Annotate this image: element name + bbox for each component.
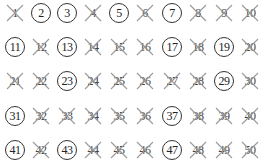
cross-mark-icon [240, 71, 260, 91]
cross-mark-icon [240, 140, 260, 160]
crossed-number-cell: 20 [238, 35, 262, 59]
cross-mark-icon [31, 106, 51, 126]
crossed-number-cell: 45 [107, 138, 131, 162]
crossed-number-cell: 30 [238, 69, 262, 93]
crossed-number-cell: 38 [186, 104, 210, 128]
prime-number-cell: 23 [55, 69, 79, 93]
cross-mark-icon [83, 106, 103, 126]
prime-number-cell: 43 [55, 138, 79, 162]
cross-mark-icon [214, 3, 234, 23]
cross-mark-icon [135, 3, 155, 23]
cross-mark-icon [83, 140, 103, 160]
prime-number-cell: 5 [107, 1, 131, 25]
cross-mark-icon [5, 71, 25, 91]
cross-mark-icon [240, 3, 260, 23]
cross-mark-icon [83, 71, 103, 91]
number-label: 5 [116, 7, 122, 19]
cross-mark-icon [109, 37, 129, 57]
crossed-number-cell: 39 [212, 104, 236, 128]
cross-mark-icon [188, 106, 208, 126]
cross-mark-icon [31, 140, 51, 160]
crossed-number-cell: 6 [133, 1, 157, 25]
crossed-number-cell: 21 [3, 69, 27, 93]
cross-mark-icon [135, 140, 155, 160]
crossed-number-cell: 25 [107, 69, 131, 93]
crossed-number-cell: 33 [55, 104, 79, 128]
cross-mark-icon [109, 140, 129, 160]
crossed-number-cell: 44 [81, 138, 105, 162]
number-label: 31 [10, 110, 21, 122]
crossed-number-cell: 15 [107, 35, 131, 59]
prime-number-cell: 29 [212, 69, 236, 93]
crossed-number-cell: 32 [29, 104, 53, 128]
prime-number-cell: 19 [212, 35, 236, 59]
prime-number-cell: 31 [3, 104, 27, 128]
crossed-number-cell: 26 [133, 69, 157, 93]
crossed-number-cell: 34 [81, 104, 105, 128]
cross-mark-icon [188, 37, 208, 57]
cross-mark-icon [135, 106, 155, 126]
number-label: 19 [219, 41, 230, 53]
prime-number-cell: 2 [29, 1, 53, 25]
number-label: 13 [62, 41, 73, 53]
crossed-number-cell: 12 [29, 35, 53, 59]
crossed-number-cell: 18 [186, 35, 210, 59]
crossed-number-cell: 24 [81, 69, 105, 93]
prime-number-cell: 7 [160, 1, 184, 25]
prime-number-cell: 41 [3, 138, 27, 162]
prime-number-cell: 3 [55, 1, 79, 25]
crossed-number-cell: 28 [186, 69, 210, 93]
cross-mark-icon [83, 37, 103, 57]
crossed-number-cell: 14 [81, 35, 105, 59]
cross-mark-icon [31, 37, 51, 57]
cross-mark-icon [188, 71, 208, 91]
number-label: 2 [38, 7, 44, 19]
number-label: 43 [62, 144, 73, 156]
crossed-number-cell: 48 [186, 138, 210, 162]
cross-mark-icon [83, 3, 103, 23]
crossed-number-cell: 4 [81, 1, 105, 25]
crossed-number-cell: 35 [107, 104, 131, 128]
cross-mark-icon [135, 71, 155, 91]
crossed-number-cell: 36 [133, 104, 157, 128]
cross-mark-icon [162, 71, 182, 91]
crossed-number-cell: 9 [212, 1, 236, 25]
crossed-number-cell: 16 [133, 35, 157, 59]
prime-number-cell: 17 [160, 35, 184, 59]
number-label: 7 [169, 7, 175, 19]
cross-mark-icon [240, 37, 260, 57]
number-label: 23 [62, 75, 73, 87]
cross-mark-icon [57, 106, 77, 126]
crossed-number-cell: 49 [212, 138, 236, 162]
cross-mark-icon [240, 106, 260, 126]
crossed-number-cell: 40 [238, 104, 262, 128]
prime-number-cell: 11 [3, 35, 27, 59]
number-label: 17 [167, 41, 178, 53]
cross-mark-icon [188, 3, 208, 23]
crossed-number-cell: 10 [238, 1, 262, 25]
crossed-number-cell: 46 [133, 138, 157, 162]
crossed-number-cell: 22 [29, 69, 53, 93]
cross-mark-icon [188, 140, 208, 160]
prime-number-cell: 37 [160, 104, 184, 128]
number-label: 3 [64, 7, 70, 19]
crossed-number-cell: 1 [3, 1, 27, 25]
crossed-number-cell: 27 [160, 69, 184, 93]
number-label: 41 [10, 144, 21, 156]
crossed-number-cell: 42 [29, 138, 53, 162]
crossed-number-cell: 8 [186, 1, 210, 25]
number-grid: 1234567891011121314151617181920212223242… [0, 0, 264, 168]
crossed-number-cell: 50 [238, 138, 262, 162]
number-label: 29 [219, 75, 230, 87]
number-label: 11 [10, 41, 21, 53]
cross-mark-icon [5, 3, 25, 23]
cross-mark-icon [214, 140, 234, 160]
number-label: 37 [167, 110, 178, 122]
cross-mark-icon [31, 71, 51, 91]
prime-number-cell: 47 [160, 138, 184, 162]
cross-mark-icon [109, 106, 129, 126]
number-label: 47 [167, 144, 178, 156]
cross-mark-icon [109, 71, 129, 91]
prime-number-cell: 13 [55, 35, 79, 59]
cross-mark-icon [135, 37, 155, 57]
